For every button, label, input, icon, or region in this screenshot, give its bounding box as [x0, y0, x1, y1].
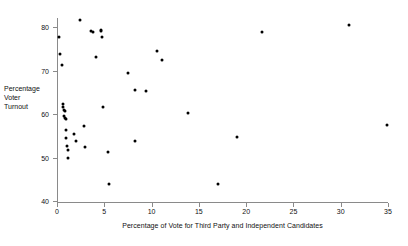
x-tick-mark	[341, 203, 342, 207]
x-tick-label: 20	[242, 208, 250, 215]
x-tick-mark	[57, 203, 58, 207]
plot-area: 05101520253035 4050607080	[0, 0, 408, 246]
data-point	[107, 150, 110, 153]
x-tick-label: 30	[337, 208, 345, 215]
x-tick-label: 5	[102, 208, 106, 215]
y-tick-mark	[53, 158, 57, 159]
data-point	[101, 36, 104, 39]
x-tick-mark	[246, 203, 247, 207]
data-point	[65, 136, 68, 139]
x-tick-label: 25	[290, 208, 298, 215]
x-tick-mark	[293, 203, 294, 207]
data-point	[57, 35, 60, 38]
y-axis-title-line-2: Voter	[4, 93, 54, 102]
x-tick-label: 15	[195, 208, 203, 215]
data-point	[126, 71, 129, 74]
y-tick-label: 60	[0, 111, 49, 118]
y-tick-mark	[53, 27, 57, 28]
data-point	[73, 133, 76, 136]
data-point	[187, 111, 190, 114]
data-point	[348, 23, 351, 26]
y-axis-title-line-3: Turnout	[4, 102, 54, 111]
data-point	[67, 156, 70, 159]
data-point	[67, 148, 70, 151]
data-point	[160, 58, 163, 61]
scatter-plot-figure: 05101520253035 4050607080 Percentage of …	[0, 0, 408, 246]
data-point	[144, 89, 147, 92]
data-point	[64, 128, 67, 131]
data-point	[78, 19, 81, 22]
data-point	[94, 56, 97, 59]
data-point	[235, 135, 238, 138]
data-point	[74, 139, 77, 142]
data-point	[60, 64, 63, 67]
data-point	[134, 139, 137, 142]
data-point	[216, 183, 219, 186]
x-tick-mark	[152, 203, 153, 207]
x-tick-mark	[104, 203, 105, 207]
data-point	[91, 31, 94, 34]
data-point	[64, 117, 67, 120]
x-tick-label: 10	[148, 208, 156, 215]
data-point	[84, 146, 87, 149]
data-point	[156, 49, 159, 52]
x-tick-label: 35	[384, 208, 392, 215]
x-tick-mark	[199, 203, 200, 207]
data-point	[133, 89, 136, 92]
y-tick-mark	[53, 201, 57, 202]
data-point	[83, 125, 86, 128]
y-tick-label: 40	[0, 198, 49, 205]
x-axis-title: Percentage of Vote for Third Party and I…	[57, 222, 388, 229]
y-tick-label: 80	[0, 24, 49, 31]
y-tick-mark	[53, 71, 57, 72]
data-point	[102, 106, 105, 109]
data-point	[63, 110, 66, 113]
y-tick-mark	[53, 114, 57, 115]
data-point	[261, 31, 264, 34]
data-point	[100, 30, 103, 33]
y-axis-title: Percentage Voter Turnout	[4, 84, 54, 111]
data-point	[108, 183, 111, 186]
x-tick-label: 0	[55, 208, 59, 215]
y-axis-line	[57, 18, 58, 203]
x-axis-line	[57, 202, 388, 203]
y-axis-title-line-1: Percentage	[4, 84, 54, 93]
data-point	[386, 123, 389, 126]
y-tick-label: 50	[0, 154, 49, 161]
x-tick-mark	[388, 203, 389, 207]
y-tick-label: 70	[0, 67, 49, 74]
data-point	[58, 52, 61, 55]
